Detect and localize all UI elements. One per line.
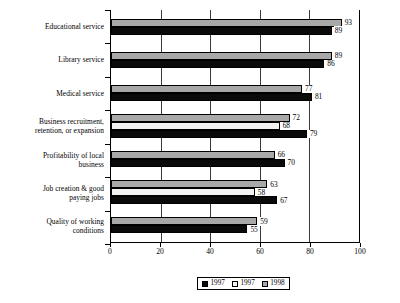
x-axis-tick-label: 0 xyxy=(108,247,112,256)
bar[interactable] xyxy=(111,130,307,138)
bar-row: 68 xyxy=(111,122,359,130)
bar-value-label: 77 xyxy=(304,85,312,93)
x-axis-tick-label: 60 xyxy=(256,247,264,256)
category-label: Educational service xyxy=(2,10,108,43)
bar-value-label: 66 xyxy=(277,151,285,159)
bar-value-label: 81 xyxy=(314,93,322,101)
bar-row: 58 xyxy=(111,188,359,196)
bar[interactable] xyxy=(111,196,277,204)
category-label-text: Business recruitment,retention, or expan… xyxy=(35,117,104,135)
bar[interactable] xyxy=(111,122,280,130)
bar[interactable] xyxy=(111,188,255,196)
bar-groups: 93898986778172687966706358675955 xyxy=(111,10,359,242)
bar[interactable] xyxy=(111,27,332,35)
legend-label: 1997 xyxy=(211,280,225,287)
category-label-text: Profitability of localbusiness xyxy=(43,151,104,169)
bar-value-label: 70 xyxy=(287,159,295,167)
bar-group: 726879 xyxy=(111,109,359,142)
bar-value-label: 63 xyxy=(270,180,278,188)
bar[interactable] xyxy=(111,114,290,122)
bar-row: 79 xyxy=(111,130,359,138)
bar-row: 72 xyxy=(111,114,359,122)
category-label-text: Quality of workingconditions xyxy=(46,217,104,235)
category-label-text: Job creation & goodpaying jobs xyxy=(43,184,104,202)
bar-group: 5955 xyxy=(111,209,359,242)
legend-label: 1998 xyxy=(270,280,284,287)
bar-row: 93 xyxy=(111,19,359,27)
bar-row: 89 xyxy=(111,27,359,35)
bar-group: 8986 xyxy=(111,43,359,76)
bar-group: 7781 xyxy=(111,76,359,109)
category-label-text: Educational service xyxy=(45,22,104,31)
bar-value-label: 55 xyxy=(250,225,258,233)
legend-swatch-icon xyxy=(202,281,208,287)
bar[interactable] xyxy=(111,60,324,68)
bar[interactable] xyxy=(111,180,267,188)
category-label: Business recruitment,retention, or expan… xyxy=(2,110,108,143)
bar-row: 67 xyxy=(111,196,359,204)
bar[interactable] xyxy=(111,93,312,101)
bar-row: 66 xyxy=(111,151,359,159)
bar[interactable] xyxy=(111,151,275,159)
legend-item[interactable]: 1997 xyxy=(202,280,225,287)
bar-value-label: 72 xyxy=(292,114,300,122)
category-label: Medical service xyxy=(2,77,108,110)
bar-group: 635867 xyxy=(111,176,359,209)
bar[interactable] xyxy=(111,225,247,233)
bar-row: 59 xyxy=(111,217,359,225)
category-label-text: Medical service xyxy=(56,89,104,98)
bar[interactable] xyxy=(111,19,342,27)
category-label: Profitability of localbusiness xyxy=(2,143,108,176)
bar[interactable] xyxy=(111,85,302,93)
bar-value-label: 89 xyxy=(334,52,342,60)
bar-value-label: 86 xyxy=(327,60,335,68)
category-label-text: Library service xyxy=(58,55,104,64)
bar-value-label: 67 xyxy=(280,196,288,204)
x-axis-tick-label: 20 xyxy=(156,247,164,256)
legend-label: 1997 xyxy=(240,280,254,287)
bar-row: 86 xyxy=(111,60,359,68)
bar-chart: Educational serviceLibrary serviceMedica… xyxy=(0,0,400,303)
plot-area: 93898986778172687966706358675955 xyxy=(110,10,360,243)
x-axis-tick-label: 100 xyxy=(354,247,365,256)
bar-row: 55 xyxy=(111,225,359,233)
bar-row: 89 xyxy=(111,52,359,60)
bar-value-label: 79 xyxy=(309,130,317,138)
bar-value-label: 58 xyxy=(257,188,265,196)
bar-value-label: 68 xyxy=(282,122,290,130)
bar[interactable] xyxy=(111,159,285,167)
bar[interactable] xyxy=(111,52,332,60)
bar-group: 6670 xyxy=(111,143,359,176)
category-label: Library service xyxy=(2,43,108,76)
bar-value-label: 93 xyxy=(344,18,352,26)
bar[interactable] xyxy=(111,217,257,225)
category-label: Quality of workingconditions xyxy=(2,210,108,243)
legend-item[interactable]: 1998 xyxy=(262,280,285,287)
bar-group: 9389 xyxy=(111,10,359,43)
category-axis: Educational serviceLibrary serviceMedica… xyxy=(2,10,108,243)
bar-row: 81 xyxy=(111,93,359,101)
bar-value-label: 59 xyxy=(260,217,268,225)
bar-row: 70 xyxy=(111,159,359,167)
x-axis-tick-label: 80 xyxy=(306,247,314,256)
bar-value-label: 89 xyxy=(334,26,342,34)
legend-swatch-icon xyxy=(232,281,238,287)
legend-swatch-icon xyxy=(262,281,268,287)
bar-row: 63 xyxy=(111,180,359,188)
category-label: Job creation & goodpaying jobs xyxy=(2,176,108,209)
x-axis-labels: 020406080100 xyxy=(110,247,360,261)
chart-legend: 199719971998 xyxy=(197,277,290,290)
legend-item[interactable]: 1997 xyxy=(232,280,255,287)
x-axis-tick-label: 40 xyxy=(206,247,214,256)
